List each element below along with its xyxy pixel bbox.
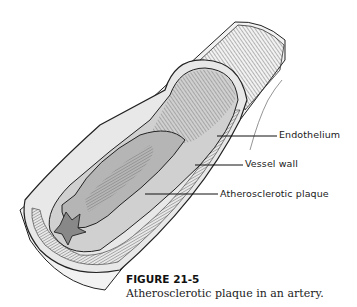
figure-number: FIGURE 21-5 bbox=[126, 273, 199, 285]
label-endothelium: Endothelium bbox=[279, 129, 340, 140]
figure-caption: Atherosclerotic plaque in an artery. bbox=[126, 287, 324, 300]
label-atherosclerotic-plaque: Atherosclerotic plaque bbox=[220, 188, 329, 199]
artery-illustration bbox=[0, 0, 357, 307]
label-vessel-wall: Vessel wall bbox=[245, 158, 298, 169]
